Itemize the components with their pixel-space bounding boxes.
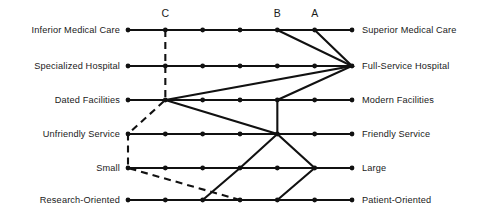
axes-group bbox=[128, 30, 352, 200]
semantic-differential-chart: ABC Inferior Medical CareSpecialized Hos… bbox=[0, 0, 488, 222]
profile-marker-b: B bbox=[274, 7, 281, 19]
profile-line-b bbox=[165, 30, 352, 200]
right-scale-label-5: Large bbox=[362, 163, 386, 173]
left-scale-label-5: Small bbox=[96, 163, 120, 173]
right-scale-label-3: Modern Facilities bbox=[362, 95, 434, 105]
tick-dot bbox=[126, 198, 131, 203]
left-scale-label-3: Dated Facilities bbox=[55, 95, 120, 105]
profile-marker-group: ABC bbox=[162, 7, 319, 19]
tick-dot bbox=[312, 98, 317, 103]
tick-dot bbox=[238, 28, 243, 33]
profile-path-group bbox=[128, 30, 352, 200]
tick-dot bbox=[163, 166, 168, 171]
tick-dot bbox=[275, 166, 280, 171]
tick-dot bbox=[163, 132, 168, 137]
profile-marker-c: C bbox=[162, 7, 170, 19]
tick-dot bbox=[126, 98, 131, 103]
left-scale-label-2: Specialized Hospital bbox=[34, 61, 120, 71]
right-scale-label-2: Full-Service Hospital bbox=[362, 61, 449, 71]
right-scale-label-4: Friendly Service bbox=[362, 129, 430, 139]
tick-dot bbox=[200, 98, 205, 103]
chart-canvas: ABC Inferior Medical CareSpecialized Hos… bbox=[0, 0, 488, 222]
tick-dot-group bbox=[126, 28, 355, 203]
tick-dot bbox=[200, 64, 205, 69]
tick-dot bbox=[238, 132, 243, 137]
right-scale-label-1: Superior Medical Care bbox=[362, 25, 457, 35]
tick-dot bbox=[312, 64, 317, 69]
tick-dot bbox=[275, 64, 280, 69]
right-scale-label-6: Patient-Oriented bbox=[362, 195, 431, 205]
tick-dot bbox=[350, 166, 355, 171]
tick-dot bbox=[350, 28, 355, 33]
left-scale-label-4: Unfriendly Service bbox=[43, 129, 120, 139]
right-label-group: Superior Medical CareFull-Service Hospit… bbox=[362, 25, 457, 205]
tick-dot bbox=[200, 166, 205, 171]
profile-marker-a: A bbox=[311, 7, 318, 19]
tick-dot bbox=[200, 132, 205, 137]
tick-dot bbox=[163, 198, 168, 203]
tick-dot bbox=[126, 28, 131, 33]
left-scale-label-1: Inferior Medical Care bbox=[32, 25, 120, 35]
profile-line-c bbox=[128, 30, 240, 200]
tick-dot bbox=[238, 98, 243, 103]
left-scale-label-6: Research-Oriented bbox=[40, 195, 120, 205]
tick-dot bbox=[350, 198, 355, 203]
tick-dot bbox=[238, 64, 243, 69]
tick-dot bbox=[350, 98, 355, 103]
tick-dot bbox=[200, 28, 205, 33]
tick-dot bbox=[312, 132, 317, 137]
tick-dot bbox=[312, 198, 317, 203]
tick-dot bbox=[126, 64, 131, 69]
tick-dot bbox=[350, 132, 355, 137]
left-label-group: Inferior Medical CareSpecialized Hospita… bbox=[32, 25, 121, 205]
profile-line-a bbox=[277, 30, 352, 200]
